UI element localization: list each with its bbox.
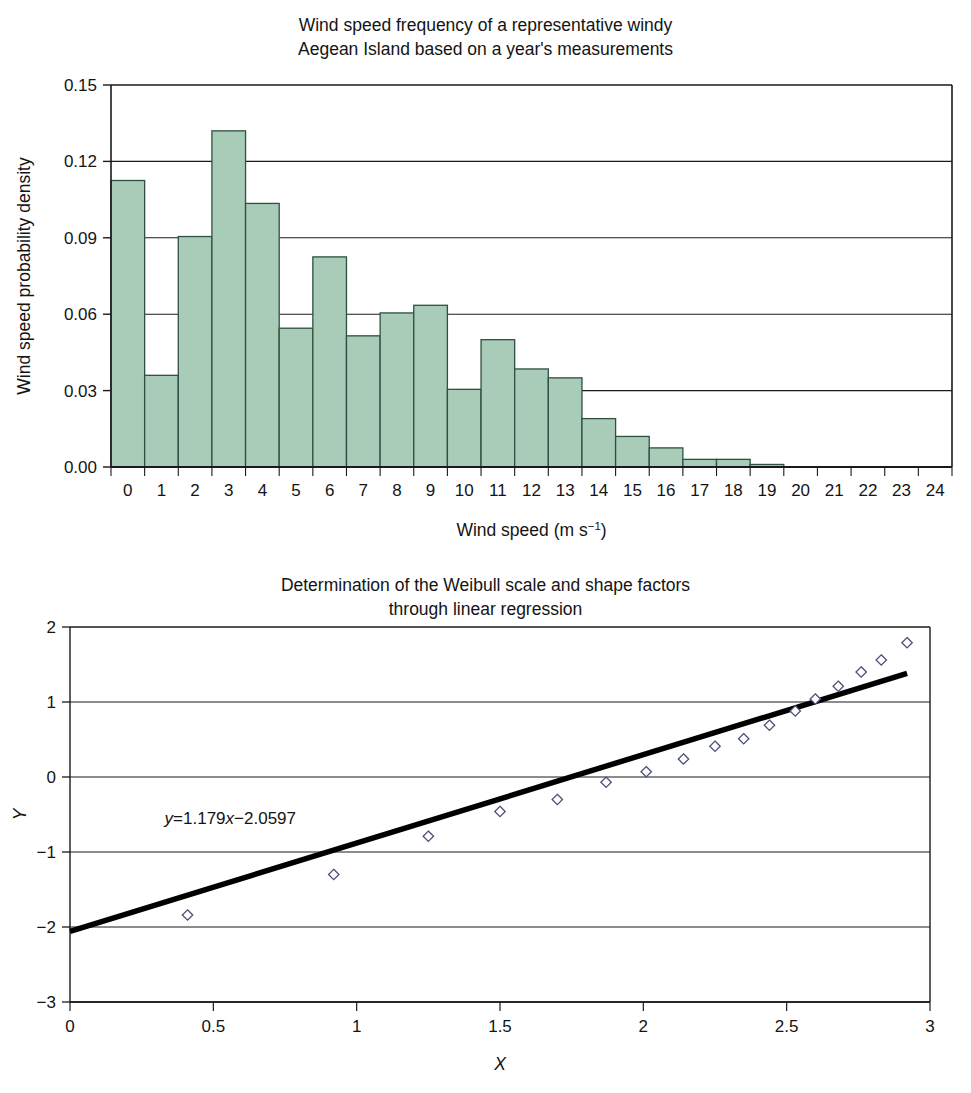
xtick-label: 3: [224, 481, 233, 500]
xtick-label: 0.5: [202, 1017, 226, 1036]
xtick-label: 24: [926, 481, 945, 500]
xtick-label: 5: [291, 481, 300, 500]
ytick-label: −3: [37, 993, 56, 1012]
histogram-bar: [178, 237, 212, 467]
scatter-point: [876, 655, 886, 665]
histogram-bar: [414, 305, 448, 467]
ytick-label: 0.03: [64, 382, 97, 401]
regression-figure: Determination of the Weibull scale and s…: [0, 552, 971, 1093]
xtick-label: 18: [724, 481, 743, 500]
xtick-label: 20: [791, 481, 810, 500]
xtick-label: 19: [758, 481, 777, 500]
scatter-point: [423, 831, 433, 841]
histogram-bar: [447, 389, 481, 467]
histogram-plot: 0.000.030.060.090.120.150123456789101112…: [0, 0, 971, 552]
ytick-label: 0.00: [64, 458, 97, 477]
scatter-point: [856, 667, 866, 677]
regression-equation: y=1.179x−2.0597: [164, 809, 296, 828]
scatter-point: [738, 734, 748, 744]
xtick-label: 17: [690, 481, 709, 500]
xtick-label: 1: [352, 1017, 361, 1036]
xtick-label: 16: [657, 481, 676, 500]
histogram-bar: [582, 419, 616, 467]
histogram-bar: [111, 181, 145, 468]
y-axis-title: Y: [10, 807, 30, 820]
histogram-title: Wind speed frequency of a representative…: [0, 14, 971, 61]
xtick-label: 3: [925, 1017, 934, 1036]
histogram-bar: [515, 369, 549, 467]
scatter-point: [678, 754, 688, 764]
xtick-label: 8: [392, 481, 401, 500]
xtick-label: 1.5: [488, 1017, 512, 1036]
histogram-bar: [346, 336, 380, 467]
scatter-point: [710, 741, 720, 751]
xtick-label: 10: [455, 481, 474, 500]
xtick-label: 22: [858, 481, 877, 500]
scatter-point: [552, 794, 562, 804]
x-axis-title: X: [493, 1054, 507, 1074]
xtick-label: 11: [489, 481, 507, 500]
xtick-label: 12: [522, 481, 541, 500]
xtick-label: 0: [123, 481, 132, 500]
scatter-point: [329, 869, 339, 879]
xtick-label: 21: [825, 481, 844, 500]
histogram-bar: [313, 257, 347, 467]
histogram-bar: [212, 131, 246, 467]
histogram-bar: [649, 448, 683, 467]
scatter-point: [182, 910, 192, 920]
histogram-bar: [246, 203, 280, 467]
xtick-label: 2: [190, 481, 199, 500]
histogram-figure: Wind speed frequency of a representative…: [0, 0, 971, 552]
xtick-label: 15: [623, 481, 642, 500]
histogram-bar: [380, 313, 414, 467]
regression-line: [70, 673, 907, 931]
ytick-label: 0.15: [64, 76, 97, 95]
histogram-bar: [481, 340, 515, 467]
ytick-label: −2: [37, 918, 56, 937]
histogram-bar: [145, 375, 179, 467]
y-axis-title: Wind speed probability density: [14, 157, 34, 395]
scatter-point: [601, 777, 611, 787]
regression-title: Determination of the Weibull scale and s…: [0, 574, 971, 621]
regression-plot: −3−2−101200.511.522.53XYy=1.179x−2.0597: [0, 552, 971, 1093]
histogram-bar: [717, 459, 751, 467]
xtick-label: 13: [556, 481, 575, 500]
scatter-point: [495, 806, 505, 816]
histogram-bar: [616, 436, 650, 467]
ytick-label: 0.12: [64, 152, 97, 171]
xtick-label: 6: [325, 481, 334, 500]
xtick-label: 2: [639, 1017, 648, 1036]
xtick-label: 7: [359, 481, 368, 500]
ytick-label: 0: [47, 768, 56, 787]
x-axis-title: Wind speed (m s−1): [456, 520, 606, 540]
xtick-label: 23: [892, 481, 911, 500]
scatter-point: [902, 638, 912, 648]
xtick-label: 2.5: [775, 1017, 799, 1036]
histogram-bar: [279, 328, 313, 467]
xtick-label: 14: [589, 481, 608, 500]
xtick-label: 1: [157, 481, 166, 500]
histogram-bar: [548, 378, 582, 467]
xtick-label: 0: [65, 1017, 74, 1036]
ytick-label: −1: [37, 843, 56, 862]
ytick-label: 0.09: [64, 229, 97, 248]
xtick-label: 9: [426, 481, 435, 500]
histogram-bar: [683, 459, 717, 467]
xtick-label: 4: [258, 481, 267, 500]
scatter-point: [833, 681, 843, 691]
ytick-label: 1: [47, 693, 56, 712]
scatter-point: [764, 720, 774, 730]
ytick-label: 0.06: [64, 305, 97, 324]
scatter-point: [641, 767, 651, 777]
